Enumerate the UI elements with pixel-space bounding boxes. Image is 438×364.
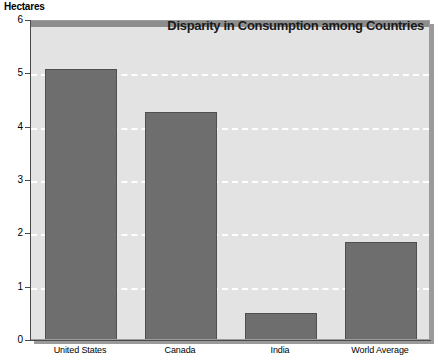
y-tick-mark <box>25 287 31 288</box>
x-tick-label: India <box>230 345 330 355</box>
x-axis-line <box>30 340 431 341</box>
y-tick-mark <box>25 20 31 21</box>
y-tick-mark <box>25 127 31 128</box>
x-tick-label: World Average <box>330 345 430 355</box>
x-tick-label: Canada <box>130 345 230 355</box>
y-tick-label: 2 <box>5 228 23 238</box>
y-tick-label: 6 <box>5 15 23 25</box>
y-tick-label: 0 <box>5 335 23 345</box>
bar-chart: Hectares 0123456 United StatesCanadaIndi… <box>0 0 438 364</box>
bar <box>145 112 217 340</box>
plot-area <box>30 20 430 340</box>
bar <box>45 69 117 340</box>
y-tick-label: 3 <box>5 175 23 185</box>
chart-title: Disparity in Consumption among Countries <box>167 18 424 33</box>
x-tick-label: United States <box>30 345 130 355</box>
y-tick-mark <box>25 233 31 234</box>
y-tick-mark <box>25 73 31 74</box>
y-tick-label: 1 <box>5 282 23 292</box>
y-tick-mark <box>25 340 31 341</box>
y-axis-title: Hectares <box>4 1 45 12</box>
bar <box>345 242 417 340</box>
y-tick-label: 4 <box>5 122 23 132</box>
y-tick-mark <box>25 180 31 181</box>
bar <box>245 313 317 340</box>
y-tick-label: 5 <box>5 68 23 78</box>
